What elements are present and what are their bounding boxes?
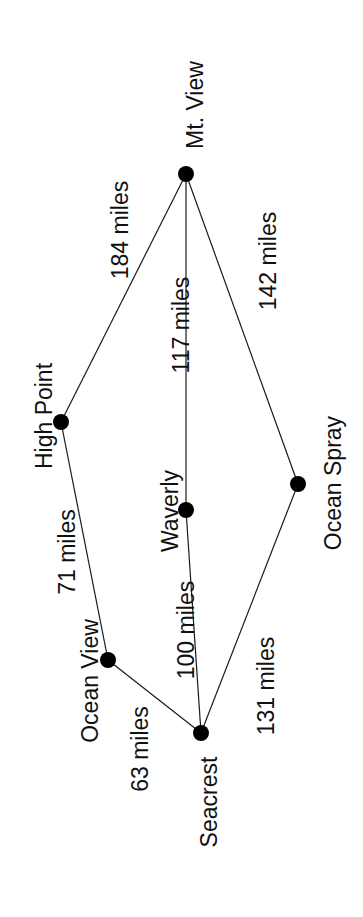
road-network-diagram: Mt. View High Point Waverly Ocean Spray …	[0, 0, 363, 917]
label-seacrest: Seacrest	[196, 756, 222, 847]
label-high-point: High Point	[31, 362, 57, 469]
distance-label-131: 131 miles	[253, 637, 279, 735]
distance-label-142: 142 miles	[255, 212, 281, 310]
label-waverly: Waverly	[157, 469, 183, 552]
distance-label-117: 117 miles	[168, 277, 194, 374]
label-ocean-spray: Ocean Spray	[320, 415, 346, 550]
distance-label-184: 184 miles	[107, 181, 133, 279]
label-ocean-view: Ocean View	[77, 619, 103, 743]
node-ocean-spray	[290, 476, 306, 492]
distance-label-71: 71 miles	[54, 509, 80, 595]
distance-label-63: 63 miles	[127, 706, 153, 792]
node-mt-view	[178, 166, 194, 182]
label-mt-view: Mt. View	[182, 61, 208, 149]
distance-label-100: 100 miles	[173, 581, 199, 679]
node-seacrest	[193, 725, 209, 741]
